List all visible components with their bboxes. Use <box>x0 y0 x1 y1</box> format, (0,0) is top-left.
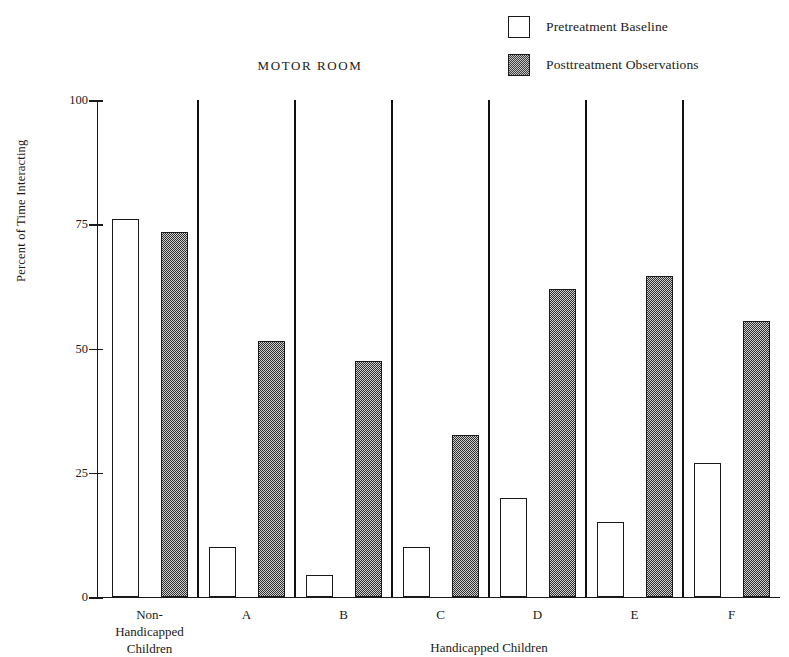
x-tick-label-C: C <box>392 606 489 623</box>
bar-posttreatment-C <box>452 435 479 597</box>
y-tick-mark <box>89 349 103 351</box>
x-tick-label-B: B <box>295 606 392 623</box>
bar-pretreatment-B <box>306 575 333 597</box>
group-separator-2 <box>391 100 393 597</box>
bar-posttreatment-A <box>258 341 285 597</box>
bar-pretreatment-C <box>403 547 430 597</box>
bar-posttreatment-D <box>549 289 576 597</box>
bar-pretreatment-Non--Handicapped-Children <box>112 219 139 597</box>
group-separator-1 <box>294 100 296 597</box>
x-tick-label-F: F <box>683 606 780 623</box>
y-tick-label: 25 <box>76 464 89 482</box>
bar-posttreatment-Non--Handicapped-Children <box>161 232 188 597</box>
group-separator-0 <box>197 100 199 597</box>
bar-pretreatment-D <box>500 498 527 597</box>
group-separator-5 <box>682 100 684 597</box>
bar-pretreatment-E <box>597 522 624 597</box>
legend-item-pretreatment: Pretreatment Baseline <box>508 12 778 42</box>
bar-posttreatment-E <box>646 276 673 597</box>
group-separator-3 <box>488 100 490 597</box>
x-axis-title: Handicapped Children <box>198 640 780 656</box>
x-tick-label-D: D <box>489 606 586 623</box>
y-tick-mark <box>89 224 103 226</box>
x-axis-line <box>97 597 780 598</box>
x-tick-label-E: E <box>586 606 683 623</box>
y-tick-mark <box>89 100 103 102</box>
bar-posttreatment-F <box>743 321 770 597</box>
bar-pretreatment-F <box>694 463 721 597</box>
y-tick-label: 75 <box>76 215 89 233</box>
x-tick-label-Non--Handicapped-Children: Non- Handicapped Children <box>101 606 198 657</box>
bar-posttreatment-B <box>355 361 382 597</box>
x-tick-label-A: A <box>198 606 295 623</box>
group-separator-4 <box>585 100 587 597</box>
legend-label-pretreatment: Pretreatment Baseline <box>546 19 668 35</box>
y-tick-label: 100 <box>69 91 88 109</box>
y-tick-label: 0 <box>82 588 88 606</box>
y-tick-label: 50 <box>76 340 89 358</box>
y-tick-mark <box>89 473 103 475</box>
bar-pretreatment-A <box>209 547 236 597</box>
y-tick-mark <box>89 597 103 599</box>
legend-swatch-pretreatment-icon <box>508 16 530 38</box>
y-axis-title: Percent of Time Interacting <box>14 139 29 282</box>
plot-area: 0255075100 <box>97 100 780 597</box>
chart-title: MOTOR ROOM <box>0 58 620 74</box>
chart-legend: Pretreatment Baseline Posttreatment Obse… <box>508 12 778 88</box>
